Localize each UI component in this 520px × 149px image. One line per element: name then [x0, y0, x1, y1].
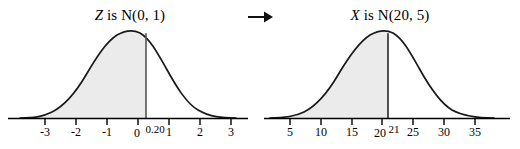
- z-tick-label-2: -1: [102, 126, 112, 139]
- x-tick-label-2: 15: [346, 126, 358, 139]
- z-tick-label-4: 1: [166, 126, 172, 139]
- z-shaded-region: [20, 31, 146, 118]
- x-tick-label-4: 25: [407, 126, 419, 139]
- normal-distribution-figure: Z is N(0, 1) -3 -2 -1: [0, 0, 520, 149]
- x-tick-label-6: 35: [469, 126, 481, 139]
- z-tick-label-5: 2: [197, 126, 203, 139]
- x-tick-label-3: 20: [374, 127, 386, 140]
- panel-z-distribution: Z is N(0, 1) -3 -2 -1: [0, 0, 260, 149]
- x-tick-label-5: 30: [438, 126, 450, 139]
- z-cut-value-label: 0.20: [145, 123, 164, 135]
- panel-x-distribution: X is N(20, 5) 5 10 15: [260, 0, 520, 149]
- z-tick-label-1: -2: [71, 126, 81, 139]
- x-tick-label-1: 10: [315, 126, 327, 139]
- x-tick-label-0: 5: [287, 126, 293, 139]
- z-tick-label-0: -3: [40, 126, 50, 139]
- z-curve-plot: [0, 0, 260, 149]
- x-cut-value-label: 21: [389, 123, 400, 135]
- z-tick-label-6: 3: [228, 126, 234, 139]
- z-tick-label-3: 0: [134, 127, 140, 140]
- x-shaded-region: [270, 31, 391, 118]
